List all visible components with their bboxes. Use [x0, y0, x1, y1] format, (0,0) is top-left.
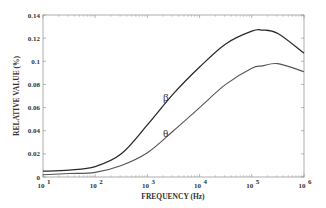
x-tick-exponent: 5	[256, 178, 260, 186]
x-tick-exponent: 1	[47, 178, 51, 186]
y-tick-label: 0.04	[28, 127, 41, 135]
y-tick-label: 0	[37, 174, 41, 182]
y-tick-label: 0.06	[28, 104, 41, 112]
series-line-beta	[43, 30, 304, 172]
plot-frame	[43, 15, 304, 177]
x-tick-label: 10	[38, 182, 46, 190]
x-tick-exponent: 2	[99, 178, 103, 186]
x-tick-exponent: 4	[204, 178, 208, 186]
x-tick-exponent: 6	[308, 178, 312, 186]
line-chart: 101102103104105106 00.020.040.060.080.10…	[0, 0, 326, 208]
y-tick-label: 0.08	[28, 81, 41, 89]
y-tick-label: 0.02	[28, 150, 41, 158]
series-lines	[43, 30, 304, 175]
y-tick-label: 0.14	[28, 12, 41, 20]
x-tick-label: 10	[194, 182, 202, 190]
series-label-beta: β	[163, 91, 169, 103]
x-axis-ticks: 101102103104105106	[38, 15, 313, 190]
x-tick-label: 10	[142, 182, 150, 190]
y-tick-label: 0.12	[28, 35, 41, 43]
x-tick-exponent: 3	[151, 178, 155, 186]
plot-border	[43, 15, 304, 177]
x-tick-label: 10	[90, 182, 98, 190]
y-tick-label: 0.1	[31, 58, 40, 66]
x-tick-label: 10	[299, 182, 307, 190]
x-axis-label: FREQUENCY (Hz)	[141, 192, 205, 201]
series-line-theta	[43, 63, 304, 174]
y-axis-label: RELATIVE VALUE (%)	[12, 55, 21, 136]
series-label-theta: θ	[163, 127, 168, 139]
x-tick-label: 10	[246, 182, 254, 190]
